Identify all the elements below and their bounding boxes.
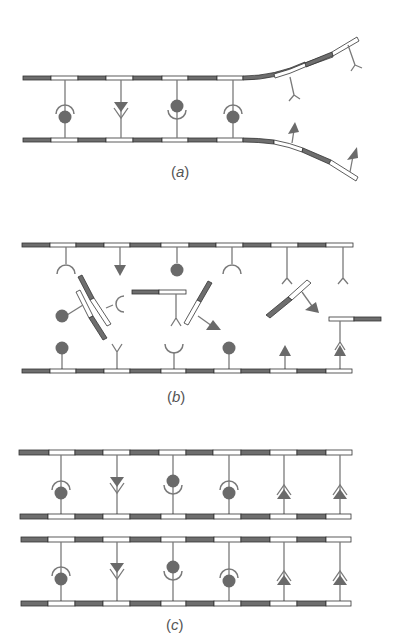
- panel-a-label: (a): [171, 163, 189, 180]
- panel-c-duplex-2: [21, 537, 351, 606]
- panel-b-bottom-bases: [56, 342, 347, 370]
- panel-b-free-strand-2: [184, 281, 221, 330]
- panel-a-unpaired-bases: [288, 45, 362, 172]
- panel-c-duplex-1-base-pairs: [52, 455, 347, 514]
- panel-b-free-strand-3: [266, 280, 319, 318]
- panel-a-bottom-strand: [23, 138, 358, 181]
- dna-replication-diagram: (a): [0, 0, 396, 637]
- panel-a-base-pairs: [56, 80, 242, 138]
- panel-c-duplex-2-bottom-strand: [21, 601, 351, 606]
- panel-b-top-bases: [57, 247, 348, 284]
- panel-b-top-strand: [22, 243, 353, 247]
- panel-c-duplex-1-top-strand: [19, 450, 352, 455]
- panel-b-bottom-strand: [22, 369, 352, 373]
- panel-a: (a): [23, 37, 362, 181]
- panel-b: (b): [22, 243, 381, 405]
- panel-b-free-strand-1: [132, 290, 186, 326]
- panel-b-free-strand-4: [329, 317, 381, 350]
- panel-a-top-strand: [23, 37, 359, 80]
- panel-c-duplex-1: [19, 450, 352, 519]
- panel-c-label: (c): [166, 616, 184, 633]
- panel-b-free-duplex: [56, 275, 125, 340]
- panel-c: (c): [19, 450, 352, 633]
- panel-c-duplex-2-base-pairs: [52, 542, 347, 601]
- panel-b-label: (b): [167, 388, 185, 405]
- panel-c-duplex-2-top-strand: [21, 537, 351, 542]
- panel-c-duplex-1-bottom-strand: [20, 514, 351, 519]
